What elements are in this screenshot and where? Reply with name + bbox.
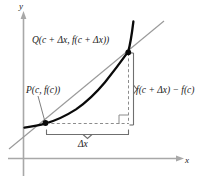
- secant-line-figure: y x Q(c + Δx, f(c + Δx)) P(c, f(c)) f(c …: [0, 0, 210, 184]
- run-brace-pointer-icon: [83, 135, 92, 139]
- point-q-label: Q(c + Δx, f(c + Δx)): [32, 36, 109, 46]
- right-angle-icon: [119, 115, 128, 124]
- run-brace: [46, 130, 129, 139]
- y-axis-arrow-icon: [21, 11, 27, 19]
- y-axis-label: y: [19, 2, 23, 11]
- x-axis-label: x: [185, 156, 189, 165]
- x-axis: [8, 156, 184, 162]
- p-label-leader-line: [38, 96, 45, 120]
- x-axis-arrow-icon: [176, 156, 184, 162]
- point-p-marker: [43, 120, 49, 126]
- point-p-label: P(c, f(c)): [26, 86, 60, 96]
- rise-label: f(c + Δx) − f(c): [136, 86, 194, 96]
- point-q-marker: [125, 49, 131, 55]
- run-label: Δx: [78, 140, 88, 150]
